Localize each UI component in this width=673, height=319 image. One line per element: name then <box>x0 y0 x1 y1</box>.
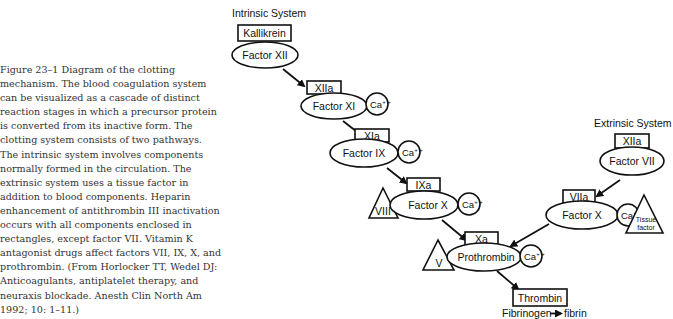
fibrinogen-to-fibrin: Fibrinogen fibrin <box>502 307 587 319</box>
thrombin-node: Thrombin <box>513 289 567 306</box>
factor-xii-label: Factor XII <box>242 49 288 61</box>
arrow-x-to-prothrombin <box>442 220 466 240</box>
viii-label: VIII <box>375 205 391 217</box>
kallikrein-node: Kallikrein <box>238 25 291 41</box>
thrombin-label: Thrombin <box>518 292 563 304</box>
calcium-label: Ca+ + <box>402 147 423 158</box>
factor-vii-label: Factor VII <box>609 155 655 167</box>
factor-vii-node: XIIa Factor VII <box>600 134 664 175</box>
arrow-ix-to-x <box>387 168 406 183</box>
factor-x-label-extrinsic: Factor X <box>562 209 602 221</box>
fibrinogen-label: Fibrinogen <box>502 307 552 319</box>
extrinsic-system-title: Extrinsic System <box>594 117 672 129</box>
factor-xii-node: Factor XII <box>232 42 298 68</box>
fibrin-label: fibrin <box>564 307 587 319</box>
factor-xi-label: Factor XI <box>313 100 356 112</box>
xiia-label: XIIa <box>315 82 334 94</box>
arrow-xii-to-xi <box>283 69 304 86</box>
factor-xi-node: XIIa Factor XI Ca+ + <box>301 81 391 119</box>
tissue-factor-label-line1: Tissue <box>636 216 656 223</box>
calcium-label: Ca+ + <box>524 251 545 262</box>
factor-ix-label: Factor IX <box>343 147 386 159</box>
prothrombin-label: Prothrombin <box>457 251 514 263</box>
intrinsic-system-title: Intrinsic System <box>232 7 306 19</box>
arrow-prothrombin-to-thrombin <box>497 271 518 289</box>
factor-ix-node: XIa Factor IX Ca+ + <box>330 129 423 167</box>
calcium-label: Ca+ + <box>462 199 483 210</box>
factor-x-intrinsic-node: IXa VIII Factor X Ca+ + <box>369 178 483 219</box>
factor-x-label: Factor X <box>408 199 448 211</box>
v-label: V <box>435 257 442 269</box>
prothrombin-node: Xa V Prothrombin Ca+ + <box>423 232 545 271</box>
calcium-label: Ca+ + <box>370 99 391 110</box>
xiia-label-extrinsic: XIIa <box>623 135 642 147</box>
clotting-cascade-diagram: Intrinsic System Kallikrein Factor XII X… <box>0 0 673 319</box>
arrow-vii-to-x <box>597 180 620 196</box>
ixa-label: IXa <box>416 179 432 191</box>
arrow-extrinsic-x-to-prothrombin <box>511 224 549 246</box>
tissue-factor-label-line2: factor <box>637 224 655 231</box>
kallikrein-label: Kallikrein <box>243 27 286 39</box>
factor-x-extrinsic-node: VIIa Factor X Ca+ + Tissue factor <box>546 190 663 233</box>
